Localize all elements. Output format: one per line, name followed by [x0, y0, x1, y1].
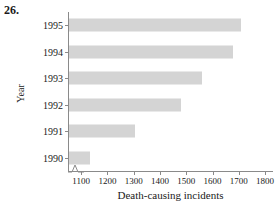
x-axis-tick	[186, 171, 187, 175]
y-axis-tick	[65, 78, 68, 79]
bar-row: 1991	[68, 118, 273, 145]
x-axis-tick-label: 1300	[125, 176, 143, 186]
y-axis-tick-label: 1994	[43, 46, 63, 57]
bar-1991	[69, 125, 135, 138]
bar-1995	[69, 19, 241, 32]
y-axis-tick-label: 1992	[43, 99, 63, 110]
y-axis-tick	[65, 131, 68, 132]
bar-1993	[69, 72, 202, 85]
x-axis-tick	[81, 171, 82, 175]
x-axis-tick-label: 1500	[177, 176, 195, 186]
x-axis-line	[68, 171, 273, 172]
y-axis-tick	[65, 105, 68, 106]
y-axis-title: Year	[15, 64, 26, 124]
y-axis-tick	[65, 158, 68, 159]
plot-area: 199519941993199219911990	[68, 12, 273, 170]
y-axis-tick	[65, 25, 68, 26]
problem-number-label: 26.	[4, 4, 19, 16]
bar-chart-figure: 26. Year 199519941993199219911990 Death-…	[0, 0, 277, 209]
bar-row: 1990	[68, 145, 273, 172]
bar-row: 1995	[68, 12, 273, 39]
y-axis-tick-label: 1990	[43, 152, 63, 163]
bar-row: 1993	[68, 65, 273, 92]
x-axis-title: Death-causing incidents	[68, 189, 273, 201]
bar-row: 1992	[68, 92, 273, 119]
x-axis-tick	[160, 171, 161, 175]
y-axis-tick	[65, 52, 68, 53]
x-axis-tick-label: 1700	[230, 176, 248, 186]
y-axis-tick-label: 1995	[43, 20, 63, 31]
x-axis-tick-label: 1100	[72, 176, 90, 186]
bar-row: 1994	[68, 39, 273, 66]
y-axis-tick-label: 1993	[43, 73, 63, 84]
y-axis-tick-label: 1991	[43, 126, 63, 137]
x-axis-tick-label: 1200	[98, 176, 116, 186]
x-axis-tick	[265, 171, 266, 175]
x-axis-tick-label: 1600	[204, 176, 222, 186]
bar-1994	[69, 45, 233, 58]
x-axis-tick-label: 1400	[151, 176, 169, 186]
bar-1990	[69, 151, 90, 164]
x-axis-tick	[239, 171, 240, 175]
bar-1992	[69, 98, 181, 111]
x-axis-tick	[107, 171, 108, 175]
x-axis-tick	[213, 171, 214, 175]
x-axis-tick	[134, 171, 135, 175]
x-axis-tick-label: 1800	[256, 176, 274, 186]
